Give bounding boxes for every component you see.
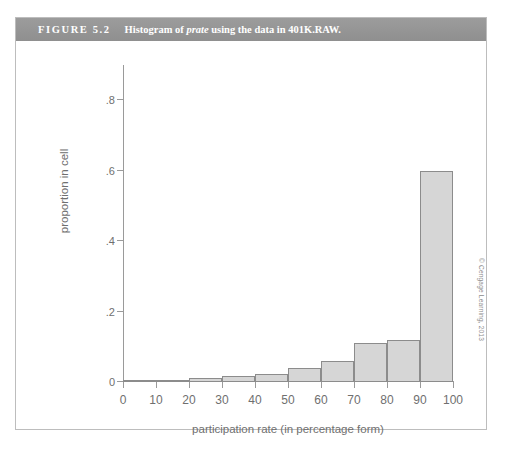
y-axis-tick <box>117 99 124 100</box>
histogram-bar <box>156 380 189 382</box>
x-axis-tick <box>420 381 421 388</box>
y-axis-line <box>123 65 124 382</box>
x-axis-tick-label: 50 <box>281 393 294 407</box>
x-axis-tick <box>387 381 388 388</box>
x-axis-tick <box>255 381 256 388</box>
x-axis-tick-label: 40 <box>248 393 261 407</box>
x-axis-tick-label: 90 <box>413 393 426 407</box>
figure-body: proportion in cell participation rate (i… <box>16 41 486 429</box>
histogram-bar <box>420 171 453 382</box>
caption-part-before: Histogram of <box>125 24 187 35</box>
x-axis-tick-label: 60 <box>314 393 327 407</box>
figure-caption: Histogram of prate using the data in 401… <box>125 24 341 35</box>
x-axis-tick <box>222 381 223 388</box>
x-axis-tick-label: 20 <box>182 393 195 407</box>
figure-number-label: FIGURE 5.2 <box>38 24 111 35</box>
histogram-bar <box>222 376 255 382</box>
x-axis-title: participation rate (in percentage form) <box>123 423 453 435</box>
figure-container: FIGURE 5.2 Histogram of prate using the … <box>15 17 487 430</box>
x-axis-tick <box>321 381 322 388</box>
x-axis-tick <box>189 381 190 388</box>
x-axis-tick <box>156 381 157 388</box>
y-axis-tick <box>117 170 124 171</box>
y-axis-tick <box>117 240 124 241</box>
histogram-bar <box>387 340 420 382</box>
caption-italic-term: prate <box>186 24 208 35</box>
x-axis-tick-label: 70 <box>347 393 360 407</box>
histogram-bar <box>321 361 354 382</box>
histogram-plot-area: 0.2.4.6.80102030405060708090100 <box>123 65 453 382</box>
figure-header-band: FIGURE 5.2 Histogram of prate using the … <box>16 18 486 41</box>
y-axis-tick-label: .2 <box>106 306 115 318</box>
histogram-bar <box>123 380 156 382</box>
x-axis-tick-label: 80 <box>380 393 393 407</box>
histogram-bar <box>354 343 387 382</box>
x-axis-tick-label: 0 <box>120 393 127 407</box>
x-axis-tick-label: 30 <box>215 393 228 407</box>
copyright-credit: © Cengage Learning, 2013 <box>478 258 485 341</box>
y-axis-tick-label: 0 <box>109 376 115 388</box>
x-axis-tick <box>453 381 454 388</box>
page-bleed-text <box>8 0 308 12</box>
y-axis-tick <box>117 311 124 312</box>
y-axis-tick-label: .6 <box>106 165 115 177</box>
histogram-bar <box>255 374 288 382</box>
x-axis-tick <box>354 381 355 388</box>
caption-part-after: using the data in 401K.RAW. <box>209 24 341 35</box>
x-axis-tick-label: 10 <box>149 393 162 407</box>
histogram-bar <box>288 368 321 382</box>
x-axis-tick-label: 100 <box>443 393 463 407</box>
y-axis-tick-label: .4 <box>106 235 115 247</box>
histogram-bar <box>189 378 222 382</box>
y-axis-title: proportion in cell <box>58 149 70 233</box>
y-axis-tick-label: .8 <box>106 94 115 106</box>
x-axis-tick <box>288 381 289 388</box>
x-axis-tick <box>123 381 124 388</box>
